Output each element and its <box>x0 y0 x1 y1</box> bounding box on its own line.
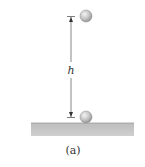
arrowhead-down-icon <box>69 112 73 117</box>
height-dimension: h <box>67 17 75 118</box>
ball-top <box>80 10 92 22</box>
figure-caption: (a) <box>65 144 80 157</box>
ground-slab <box>31 123 134 136</box>
height-label: h <box>67 64 74 77</box>
ball-bottom <box>80 111 92 123</box>
arrowhead-up-icon <box>69 17 73 22</box>
falling-ball-diagram: h (a) <box>0 0 145 167</box>
